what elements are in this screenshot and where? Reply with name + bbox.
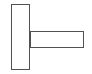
vertical-bar [12, 5, 30, 70]
diagram-svg: Tee shape line drawing [0, 0, 92, 74]
horizontal-bar [31, 32, 84, 48]
diagram-canvas: Tee shape line drawing [0, 0, 92, 74]
